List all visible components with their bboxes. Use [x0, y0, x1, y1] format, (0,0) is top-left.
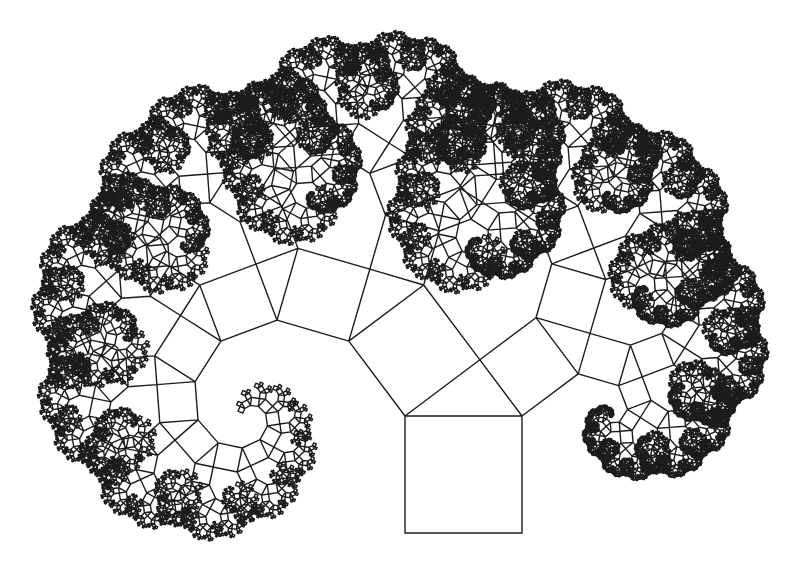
fractal-tree-diagram — [0, 0, 798, 569]
pythagoras-tree-figure: Pythagoras tree fractal — [0, 0, 798, 569]
tree-squares — [31, 31, 769, 542]
